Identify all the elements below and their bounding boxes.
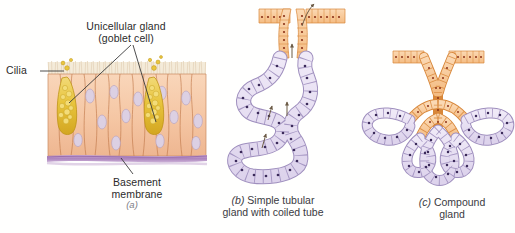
panel-a-artwork [40,45,207,174]
panel-b-caption-line1: Simple tubular [247,194,314,206]
surface-epithelium-right [306,9,345,23]
label-unicellular-line1: Unicellular gland [86,20,165,32]
label-unicellular-line2: (goblet cell) [98,32,154,44]
label-basement-line1: Basement [113,176,161,188]
label-unicellular-gland: Unicellular gland(goblet cell) [60,20,192,45]
panel-b-caption-line2: gland with coiled tube [223,206,324,218]
coiled-secretory-tube [235,58,312,177]
surface-epithelium-c [393,51,484,63]
panel-b-prefix: (b) [232,194,245,206]
panel-c-caption-line2: gland [439,208,465,220]
panel-b-artwork [235,4,345,177]
panel-b-caption: (b) Simple tubulargland with coiled tube [197,194,349,219]
panel-a-sublabel: (a) [120,199,144,210]
panel-c-caption-line1: Compound [434,196,485,208]
panel-c-prefix: (c) [419,196,431,208]
panel-c-artwork [367,51,509,181]
glandular-epithelium-figure: Unicellular gland(goblet cell) Cilia Bas… [0,0,515,233]
panel-c-caption: (c) Compoundgland [398,196,506,221]
label-basement-membrane: Basementmembrane [95,176,179,201]
label-cilia: Cilia [6,64,46,76]
